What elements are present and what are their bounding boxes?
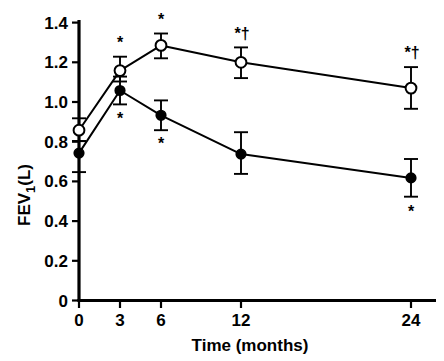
fev1-line-chart: 0 0.2 0.4 0.6 0.8 1.0 1.2 1.4 0 3 6 12 2… bbox=[0, 0, 444, 361]
data-point-open-0[interactable] bbox=[74, 125, 85, 136]
annotation-open-24: *† bbox=[404, 44, 419, 61]
y-tick-label-0-6: 0.6 bbox=[44, 172, 68, 191]
data-point-open-12[interactable] bbox=[236, 57, 247, 68]
annotation-filled-6: * bbox=[158, 135, 165, 152]
x-tick-label-12: 12 bbox=[232, 311, 251, 330]
y-axis-title-subscript: 1 bbox=[23, 186, 38, 193]
data-point-filled-3[interactable] bbox=[115, 86, 125, 96]
x-tick-label-6: 6 bbox=[156, 311, 165, 330]
y-tick-label-0: 0 bbox=[59, 292, 68, 311]
y-tick-label-0-4: 0.4 bbox=[44, 212, 68, 231]
y-tick-label-1-2: 1.2 bbox=[44, 53, 68, 72]
y-tick-label-0-8: 0.8 bbox=[44, 133, 68, 152]
data-point-open-6[interactable] bbox=[156, 40, 167, 51]
data-point-open-3[interactable] bbox=[115, 65, 126, 76]
x-tick-label-24: 24 bbox=[402, 311, 421, 330]
annotation-filled-24: * bbox=[408, 203, 415, 220]
y-tick-label-1-4: 1.4 bbox=[44, 14, 68, 33]
x-tick-label-0: 0 bbox=[74, 311, 83, 330]
data-point-filled-12[interactable] bbox=[236, 149, 246, 159]
data-point-filled-6[interactable] bbox=[156, 111, 166, 121]
x-tick-label-3: 3 bbox=[115, 311, 124, 330]
x-axis-title: Time (months) bbox=[192, 336, 309, 355]
y-axis-title-main: FEV bbox=[15, 192, 34, 226]
annotation-open-3: * bbox=[117, 34, 124, 51]
y-axis-title-unit: (L) bbox=[15, 164, 34, 186]
data-point-open-24[interactable] bbox=[406, 83, 417, 94]
data-point-filled-24[interactable] bbox=[406, 173, 416, 183]
y-tick-label-0-2: 0.2 bbox=[44, 252, 68, 271]
annotation-open-12: *† bbox=[234, 25, 249, 42]
y-tick-label-1-0: 1.0 bbox=[44, 93, 68, 112]
annotation-open-6: * bbox=[158, 11, 165, 28]
chart-figure: 0 0.2 0.4 0.6 0.8 1.0 1.2 1.4 0 3 6 12 2… bbox=[0, 0, 444, 361]
annotation-filled-3: * bbox=[117, 110, 124, 127]
data-point-filled-0[interactable] bbox=[74, 148, 84, 158]
